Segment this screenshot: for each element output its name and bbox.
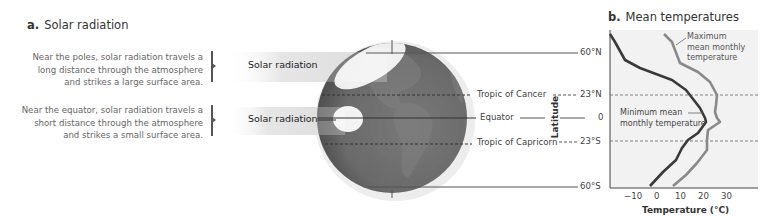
beam-label-poles: Solar radiation: [248, 59, 318, 70]
max-label-line-1: Maximum: [687, 32, 745, 43]
equator-line-2: short distance through the atmosphere: [15, 117, 203, 130]
equator-bracket-arrow-icon: [212, 117, 216, 123]
xtick-0: 0: [654, 191, 659, 201]
tick-0: 0: [598, 112, 603, 122]
min-label-line-2: monthly temperature: [620, 118, 706, 129]
tick-23S: 23°S: [580, 136, 601, 146]
poles-description: Near the poles, solar radiation travels …: [15, 51, 203, 89]
panel-b-letter: b.: [608, 10, 621, 24]
poles-bracket-arrow-icon: [212, 63, 216, 69]
min-temp-label: Minimum mean monthly temperature: [620, 107, 706, 129]
tropic-of-capricorn-label: Tropic of Capricorn: [475, 137, 559, 147]
poles-line-2: long distance through the atmosphere: [15, 64, 203, 77]
max-label-line-2: mean monthly: [687, 43, 745, 54]
xtick-10: 10: [675, 191, 686, 201]
tick-60N: 60°N: [580, 47, 602, 57]
equator-line-3: and strikes a small surface area.: [15, 129, 203, 142]
tick-23N: 23°N: [580, 89, 602, 99]
latitude-axis-title: Latitude: [550, 96, 560, 138]
min-label-line-1: Minimum mean: [620, 107, 706, 118]
tick-60S: 60°S: [580, 181, 601, 191]
poles-line-3: and strikes a large surface area.: [15, 76, 203, 89]
max-label-line-3: temperature: [687, 53, 745, 64]
beam-label-equator: Solar radiation: [248, 113, 318, 124]
equator-label: Equator: [478, 112, 516, 122]
poles-line-1: Near the poles, solar radiation travels …: [15, 51, 203, 64]
xtick-neg10: −10: [624, 191, 642, 201]
xtick-30: 30: [721, 191, 732, 201]
max-temp-label: Maximum mean monthly temperature: [687, 32, 745, 64]
equator-description: Near the equator, solar radiation travel…: [15, 104, 203, 142]
temperature-axis-title: Temperature (°C): [642, 205, 729, 215]
panel-b-title: b.Mean temperatures: [608, 10, 739, 24]
equator-line-1: Near the equator, solar radiation travel…: [15, 104, 203, 117]
panel-b-title-text: Mean temperatures: [626, 10, 739, 24]
tropic-of-cancer-label: Tropic of Cancer: [475, 89, 548, 99]
xtick-20: 20: [698, 191, 709, 201]
